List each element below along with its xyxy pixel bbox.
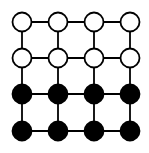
grid-edges [22, 22, 130, 131]
hollow-node [13, 49, 32, 68]
filled-node [121, 122, 140, 141]
hollow-node [121, 13, 140, 32]
filled-node [13, 85, 32, 104]
filled-node [13, 122, 32, 141]
hollow-node [49, 13, 68, 32]
filled-node [49, 122, 68, 141]
filled-node [121, 85, 140, 104]
filled-node [85, 85, 104, 104]
hollow-node [85, 49, 104, 68]
hollow-node [13, 13, 32, 32]
filled-node [49, 85, 68, 104]
hollow-node [85, 13, 104, 32]
hollow-node [49, 49, 68, 68]
grid-diagram [0, 0, 149, 153]
grid-nodes [13, 13, 140, 141]
hollow-node [121, 49, 140, 68]
filled-node [85, 122, 104, 141]
